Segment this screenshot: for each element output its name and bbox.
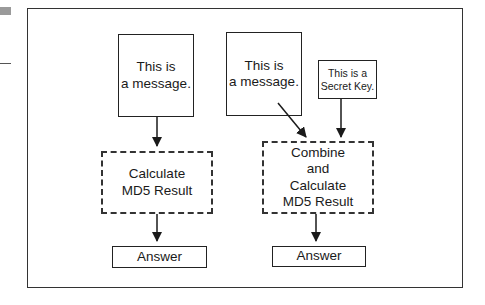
left-message-box: This is a message.	[118, 34, 194, 117]
left-answer-box: Answer	[112, 246, 207, 268]
right-message-box: This is a message.	[226, 32, 302, 116]
right-answer-box: Answer	[272, 246, 366, 267]
right-process-box: Combine and Calculate MD5 Result	[262, 141, 374, 214]
secret-key-box: This is a Secret Key.	[318, 60, 377, 99]
right-process-text: Combine and Calculate MD5 Result	[283, 145, 354, 211]
page-edge-marker	[0, 7, 11, 15]
right-message-text: This is a message.	[229, 58, 299, 91]
page-edge-rule	[0, 63, 11, 64]
left-message-text: This is a message.	[121, 59, 191, 92]
left-answer-text: Answer	[137, 249, 182, 265]
secret-key-text: This is a Secret Key.	[321, 67, 375, 93]
left-process-box: Calculate MD5 Result	[101, 151, 213, 214]
right-answer-text: Answer	[296, 248, 341, 264]
left-process-text: Calculate MD5 Result	[122, 166, 193, 199]
